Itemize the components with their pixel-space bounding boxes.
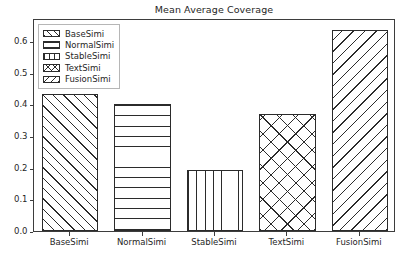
legend-item-basesimi: BaseSimi xyxy=(43,28,114,39)
x-tick-label: FusionSimi xyxy=(336,237,382,247)
y-tick-label: 0.1 xyxy=(14,194,28,204)
legend-swatch-icon xyxy=(43,64,60,72)
legend-item-stablesimi: StableSimi xyxy=(43,51,114,62)
chart-title: Mean Average Coverage xyxy=(33,4,395,15)
chart-figure: Mean Average Coverage 0.00.10.20.30.40.5… xyxy=(0,0,411,261)
y-tick-label: 0.4 xyxy=(14,99,28,109)
x-tick-mark xyxy=(286,232,287,236)
x-tick-mark xyxy=(69,232,70,236)
legend-label: BaseSimi xyxy=(65,29,104,39)
legend-swatch-icon xyxy=(43,53,60,61)
x-tick-label: BaseSimi xyxy=(50,237,89,247)
x-tick-mark xyxy=(142,232,143,236)
bar-fusionsimi xyxy=(332,30,388,231)
y-tick: 0.5 xyxy=(0,74,33,75)
y-tick-label: 0.6 xyxy=(14,36,28,46)
legend-swatch-icon xyxy=(43,30,60,38)
bar-textsimi xyxy=(259,114,315,231)
chart-legend: BaseSimiNormalSimiStableSimiTextSimiFusi… xyxy=(38,24,120,89)
legend-label: FusionSimi xyxy=(65,74,111,84)
legend-label: NormalSimi xyxy=(65,40,114,50)
legend-swatch-icon xyxy=(43,41,60,49)
y-tick-mark xyxy=(30,232,34,233)
y-tick: 0.4 xyxy=(0,105,33,106)
y-tick: 0.0 xyxy=(0,232,33,233)
bar-basesimi xyxy=(42,94,98,231)
y-tick: 0.1 xyxy=(0,200,33,201)
legend-label: StableSimi xyxy=(65,51,110,61)
legend-label: TextSimi xyxy=(65,63,101,73)
y-tick-label: 0.5 xyxy=(14,68,28,78)
y-tick-label: 0.3 xyxy=(14,131,28,141)
y-tick: 0.6 xyxy=(0,42,33,43)
bar-stablesimi xyxy=(187,170,243,231)
x-tick-label: StableSimi xyxy=(191,237,236,247)
x-tick-label: NormalSimi xyxy=(117,237,166,247)
x-tick-mark xyxy=(214,232,215,236)
legend-swatch-icon xyxy=(43,76,60,84)
x-tick-mark xyxy=(359,232,360,236)
legend-item-textsimi: TextSimi xyxy=(43,62,114,73)
y-tick: 0.2 xyxy=(0,169,33,170)
bar-normalsimi xyxy=(114,104,170,231)
legend-item-fusionsimi: FusionSimi xyxy=(43,74,114,85)
legend-item-normalsimi: NormalSimi xyxy=(43,39,114,50)
y-tick-label: 0.2 xyxy=(14,163,28,173)
x-tick-label: TextSimi xyxy=(269,237,305,247)
y-tick: 0.3 xyxy=(0,137,33,138)
y-tick-label: 0.0 xyxy=(14,226,28,236)
